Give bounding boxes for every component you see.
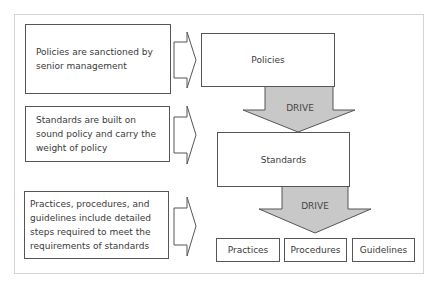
practices-label: Practices	[228, 243, 269, 257]
right-arrow-icon	[174, 106, 196, 164]
guidelines-box: Guidelines	[352, 238, 415, 262]
standards-box: Standards	[217, 132, 350, 187]
policies-label: Policies	[251, 53, 284, 67]
practices-box: Practices	[216, 238, 280, 262]
standards-description-text: Standards are built on sound policy and …	[36, 113, 159, 155]
policy-description: Policies are sanctioned by senior manage…	[25, 24, 171, 94]
procedures-box: Procedures	[284, 238, 347, 262]
policies-box: Policies	[201, 33, 335, 87]
drive-label: DRIVE	[285, 201, 345, 211]
procedures-label: Procedures	[291, 243, 341, 257]
guidelines-label: Guidelines	[360, 243, 407, 257]
policy-description-text: Policies are sanctioned by senior manage…	[36, 45, 160, 73]
standards-label: Standards	[261, 153, 307, 167]
practices-description-text: Practices, procedures, and guidelines in…	[30, 197, 158, 253]
standards-description: Standards are built on sound policy and …	[25, 106, 170, 162]
right-arrow-icon	[174, 197, 196, 256]
drive-label: DRIVE	[270, 103, 330, 113]
right-arrow-icon	[174, 32, 196, 88]
practices-description: Practices, procedures, and guidelines in…	[24, 191, 169, 259]
